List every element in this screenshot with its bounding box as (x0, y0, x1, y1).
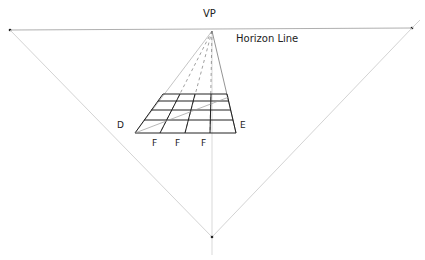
right-extension-line (412, 20, 420, 28)
horizon-line-label: Horizon Line (236, 34, 298, 44)
point-d-label: D (117, 121, 124, 130)
perspective-diagram (0, 0, 425, 260)
horizon-line (10, 28, 412, 30)
point-f-label-2: F (175, 139, 180, 148)
bottom-point (211, 236, 214, 239)
point-e-label: E (240, 121, 246, 130)
vp-label: VP (203, 9, 216, 19)
grid-diagonal-line (135, 97, 229, 133)
point-f-label-1: F (152, 139, 157, 148)
right-guide-line (212, 28, 412, 237)
point-f-label-3: F (201, 139, 206, 148)
